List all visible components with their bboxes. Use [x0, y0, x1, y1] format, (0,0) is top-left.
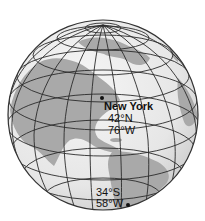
globe-diagram: New York 42°N 76°W 34°S 58°W: [0, 0, 205, 221]
new-york-latitude: 42°N: [108, 112, 133, 124]
south-point-longitude: 58°W: [96, 197, 124, 209]
new-york-label: New York: [104, 100, 154, 112]
south-point-marker: [126, 203, 130, 207]
new-york-longitude: 76°W: [108, 124, 136, 136]
